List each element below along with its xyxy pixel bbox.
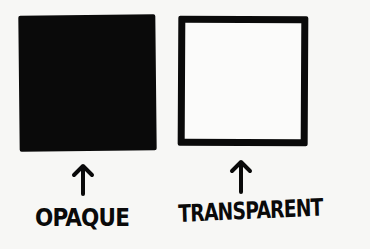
opaque-square <box>18 14 156 151</box>
transparent-label: TRANSPARENT <box>178 196 323 226</box>
arrow-up-icon <box>228 158 254 194</box>
transparent-square <box>178 16 309 147</box>
arrow-up-icon <box>70 162 96 196</box>
opaque-label: OPAQUE <box>35 205 129 230</box>
